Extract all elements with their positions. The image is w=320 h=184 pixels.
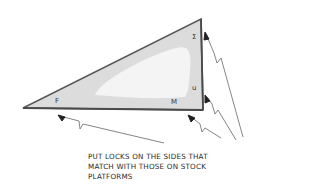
arrow-to-m-icon (188, 115, 221, 138)
arrow-to-u-icon (205, 95, 236, 140)
label-sigma: Σ (192, 34, 196, 41)
note-line-3: PLATFORMS (88, 172, 260, 182)
arrow-to-sigma-icon (204, 32, 243, 137)
note-line-2: MATCH WITH THOSE ON STOCK (88, 162, 260, 172)
annotation-note: PUT LOCKS ON THE SIDES THAT MATCH WITH T… (88, 152, 260, 182)
label-f: F (55, 98, 59, 105)
note-line-1: PUT LOCKS ON THE SIDES THAT (88, 152, 260, 162)
label-u: u (192, 85, 196, 92)
arrow-to-f-icon (58, 115, 164, 143)
label-m: M (171, 99, 177, 106)
